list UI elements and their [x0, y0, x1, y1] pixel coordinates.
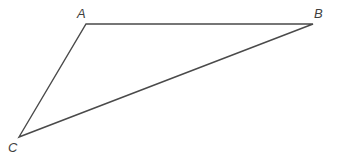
vertex-label-a: A [77, 7, 86, 20]
vertex-label-c: C [8, 141, 17, 154]
geometry-figure: A B C [0, 0, 337, 167]
triangle-abc [19, 24, 313, 137]
vertex-label-b: B [314, 7, 323, 20]
triangle-drawing [0, 0, 337, 167]
